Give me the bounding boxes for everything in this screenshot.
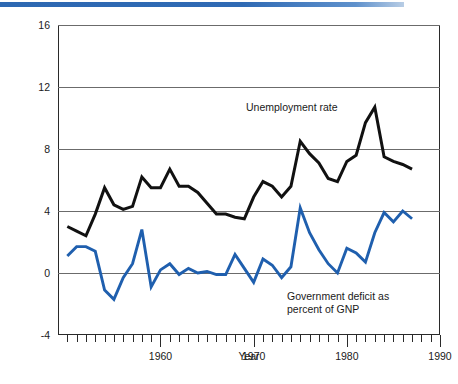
y-tick-label-8: 8 — [14, 143, 50, 155]
x-tick-1979 — [338, 335, 339, 342]
y-tick-label-12: 12 — [14, 81, 50, 93]
x-tick-1960 — [160, 335, 161, 347]
x-tick-1984 — [384, 335, 385, 342]
y-tick-label-0: 0 — [14, 267, 50, 279]
x-axis-title: Year — [58, 350, 440, 362]
x-tick-1959 — [151, 335, 152, 342]
x-tick-1972 — [272, 335, 273, 342]
government-deficit-annotation: Government deficit as percent of GNP — [287, 290, 389, 315]
x-tick-1987 — [412, 335, 413, 342]
chart-series-canvas — [58, 25, 440, 335]
y-tick-label-4: 4 — [14, 205, 50, 217]
government-deficit-line — [67, 208, 412, 299]
x-tick-1983 — [375, 335, 376, 342]
x-tick-1965 — [207, 335, 208, 342]
x-tick-1958 — [142, 335, 143, 342]
x-tick-1975 — [300, 335, 301, 342]
chart-figure: 1612840-4 1960197019801990 Unemployment … — [0, 0, 458, 384]
x-tick-1989 — [431, 335, 432, 342]
x-tick-1962 — [179, 335, 180, 342]
x-tick-1954 — [105, 335, 106, 342]
plot-area: 1612840-4 1960197019801990 — [58, 25, 440, 335]
y-tick-label-16: 16 — [14, 19, 50, 31]
x-tick-1951 — [77, 335, 78, 342]
unemployment-rate-annotation: Unemployment rate — [246, 101, 338, 114]
x-tick-1952 — [86, 335, 87, 342]
x-tick-1986 — [403, 335, 404, 342]
decorative-top-rule — [0, 2, 404, 7]
x-tick-1982 — [365, 335, 366, 342]
x-tick-1973 — [282, 335, 283, 342]
x-tick-1967 — [226, 335, 227, 342]
x-tick-1985 — [393, 335, 394, 342]
x-tick-1981 — [356, 335, 357, 342]
x-tick-1968 — [235, 335, 236, 342]
x-tick-1970 — [254, 335, 255, 347]
x-tick-1964 — [198, 335, 199, 342]
x-tick-1961 — [170, 335, 171, 342]
x-tick-1966 — [216, 335, 217, 342]
x-tick-1978 — [328, 335, 329, 342]
x-tick-1950 — [67, 335, 68, 342]
x-tick-1969 — [244, 335, 245, 342]
x-tick-1977 — [319, 335, 320, 342]
x-tick-1957 — [133, 335, 134, 342]
x-tick-1990 — [440, 335, 441, 347]
x-tick-1963 — [188, 335, 189, 342]
x-tick-1953 — [95, 335, 96, 342]
x-tick-1980 — [347, 335, 348, 347]
x-tick-1988 — [421, 335, 422, 342]
x-tick-1955 — [114, 335, 115, 342]
x-tick-1971 — [263, 335, 264, 342]
unemployment-rate-line — [67, 107, 412, 236]
x-tick-1974 — [291, 335, 292, 342]
y-tick-label--4: -4 — [14, 329, 50, 341]
x-tick-1956 — [123, 335, 124, 342]
x-tick-1976 — [310, 335, 311, 342]
